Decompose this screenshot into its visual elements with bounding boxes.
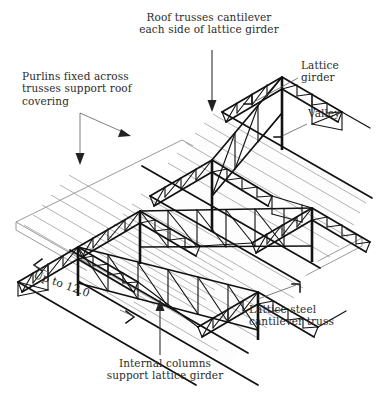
leader-purlins <box>76 113 132 165</box>
label-purlins: Purlins fixed across trusses support roo… <box>22 70 162 107</box>
leader-valley <box>274 124 307 137</box>
lattice-roof-diagram: Roof trusses cantilever each side of lat… <box>0 0 376 393</box>
label-lattice-girder: Lattice girder <box>301 59 371 84</box>
label-lattice-steel-cantilever-truss: Lattice steel cantilever truss <box>249 303 359 328</box>
label-roof-trusses-cantilever: Roof trusses cantilever each side of lat… <box>138 11 280 36</box>
label-valley: Valley <box>308 107 368 119</box>
leader-roof-trusses <box>208 50 217 112</box>
label-internal-columns: Internal columns support lattice girder <box>95 357 235 382</box>
